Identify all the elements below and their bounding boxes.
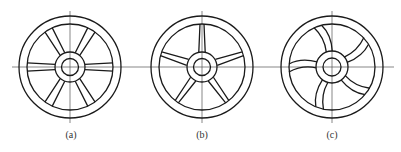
panel-label-b: (b) (196, 129, 208, 140)
panel-label-c: (c) (326, 129, 337, 140)
panel-label-a: (a) (65, 129, 76, 140)
